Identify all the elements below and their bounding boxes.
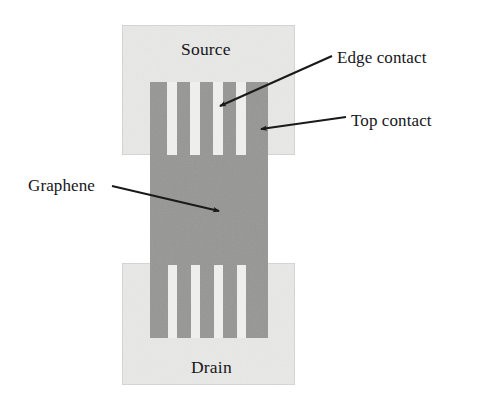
drain-finger-gap: [168, 265, 177, 338]
source-finger-gap: [190, 82, 200, 155]
source-finger-gap: [213, 82, 223, 155]
edge-contact-label: Edge contact: [337, 48, 426, 68]
source-finger-gap: [167, 82, 177, 155]
drain-finger-gap: [237, 265, 246, 338]
drain-finger-gap: [214, 265, 223, 338]
top-contact-label: Top contact: [351, 111, 432, 131]
diagram-figure: Source Drain Edge contact Top contact Gr…: [0, 0, 488, 409]
source-finger-gap: [236, 82, 246, 155]
drain-pad-label: Drain: [191, 357, 232, 378]
source-pad-label: Source: [181, 39, 231, 60]
graphene-label: Graphene: [28, 176, 95, 196]
drain-finger-gap: [191, 265, 200, 338]
